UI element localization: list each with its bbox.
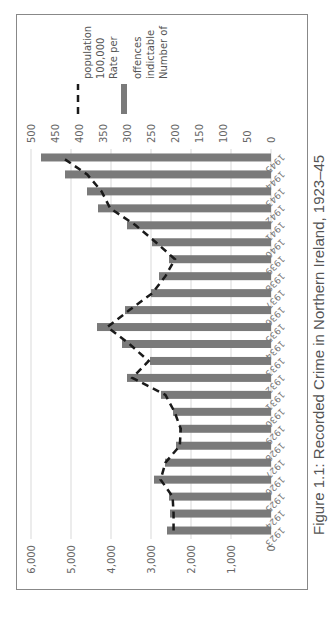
right-axis-tick: 450 xyxy=(50,124,61,143)
figure-caption: Figure 1.1: Recorded Crime in Northern I… xyxy=(310,155,327,535)
bar xyxy=(97,323,271,331)
right-axis-tick: 400 xyxy=(74,124,85,143)
bar xyxy=(65,170,271,178)
bar xyxy=(122,340,271,348)
bar xyxy=(179,425,271,433)
right-axis-tick: 50 xyxy=(242,130,253,143)
right-axis-tick: 500 xyxy=(26,124,37,143)
right-axis-tick: 300 xyxy=(122,124,133,143)
bar xyxy=(152,238,271,246)
left-axis-tick: 4,000 xyxy=(106,545,117,574)
left-axis-tick: 3,000 xyxy=(146,545,157,574)
legend-line-label: population xyxy=(82,26,93,79)
legend-bar-label: offences xyxy=(132,37,143,79)
legend-line-label: Rate per xyxy=(108,35,119,79)
bar xyxy=(165,459,271,467)
bar xyxy=(150,357,271,365)
bar xyxy=(169,493,271,501)
right-axis-tick: 0 xyxy=(266,137,277,143)
legend-bar-label: Number of xyxy=(158,26,169,79)
legend-line-label: 100,000 xyxy=(95,38,106,79)
right-axis-tick: 350 xyxy=(98,124,109,143)
left-axis-tick: 2,000 xyxy=(186,545,197,574)
rotated-figure: 01,0002,0003,0004,0005,0006,000050100150… xyxy=(0,0,330,635)
bar xyxy=(176,442,271,450)
left-axis-tick: 5,000 xyxy=(66,545,77,574)
legend-bar-label: indictable xyxy=(145,30,156,79)
bar xyxy=(170,510,271,518)
bar xyxy=(125,306,271,314)
right-axis-tick: 100 xyxy=(218,124,229,143)
bar xyxy=(173,408,271,416)
bar xyxy=(151,289,271,297)
bar xyxy=(159,272,271,280)
bar xyxy=(127,374,271,382)
bar xyxy=(161,391,271,399)
left-axis-tick: 1,000 xyxy=(226,545,237,574)
bar xyxy=(154,476,271,484)
right-axis-tick: 150 xyxy=(194,124,205,143)
bar xyxy=(169,255,271,263)
chart: 01,0002,0003,0004,0005,0006,000050100150… xyxy=(17,15,307,589)
left-axis-tick: 6,000 xyxy=(26,545,37,574)
legend-bar-swatch xyxy=(121,84,127,114)
bar xyxy=(98,204,271,212)
bar xyxy=(87,187,271,195)
bar xyxy=(41,153,271,161)
right-axis-tick: 250 xyxy=(146,124,157,143)
chart-frame: 01,0002,0003,0004,0005,0006,000050100150… xyxy=(16,14,308,590)
right-axis-tick: 200 xyxy=(170,124,181,143)
bar xyxy=(127,221,271,229)
bar xyxy=(167,527,271,535)
